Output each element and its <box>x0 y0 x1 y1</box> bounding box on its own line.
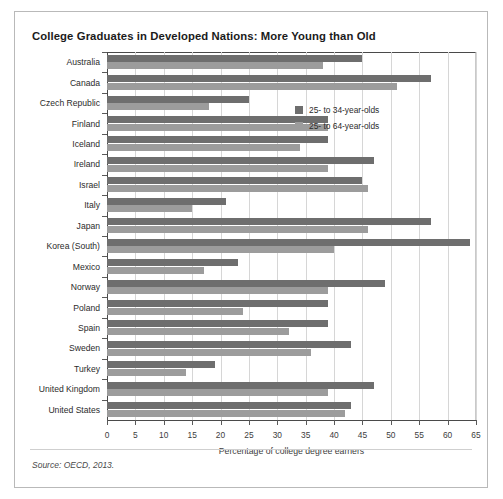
x-tick-label: 35 <box>301 430 310 440</box>
category-label: Korea (South) <box>46 241 100 251</box>
bar-row: Czech Republic <box>107 93 476 113</box>
category-tick <box>102 72 107 73</box>
bar-row: Turkey <box>107 359 476 379</box>
bar-row: Iceland <box>107 134 476 154</box>
plot-area: 05101520253035404550556065 AustraliaCana… <box>107 52 476 420</box>
bar-young <box>107 96 249 103</box>
bar-young <box>107 198 226 205</box>
bar-young <box>107 300 328 307</box>
x-tick <box>391 420 392 425</box>
x-tick-label: 45 <box>358 430 367 440</box>
x-tick-label: 25 <box>244 430 253 440</box>
x-tick-label: 60 <box>443 430 452 440</box>
bar-row: Italy <box>107 195 476 215</box>
category-tick <box>102 236 107 237</box>
category-label: United Kingdom <box>39 384 100 394</box>
category-tick <box>102 154 107 155</box>
bar-all <box>107 165 328 172</box>
bar-all <box>107 267 204 274</box>
x-tick <box>164 420 165 425</box>
bar-row: United Kingdom <box>107 379 476 399</box>
bar-row: Mexico <box>107 256 476 276</box>
bar-row: Finland <box>107 113 476 133</box>
category-tick <box>102 338 107 339</box>
category-label: Japan <box>77 221 100 231</box>
bar-young <box>107 75 431 82</box>
bar-row: Poland <box>107 297 476 317</box>
bar-all <box>107 185 368 192</box>
category-tick <box>102 134 107 135</box>
category-label: Ireland <box>74 159 100 169</box>
category-label: Czech Republic <box>40 98 100 108</box>
bar-young <box>107 320 328 327</box>
category-tick <box>102 93 107 94</box>
bar-young <box>107 136 328 143</box>
bar-young <box>107 280 385 287</box>
bar-young <box>107 341 351 348</box>
category-label: Poland <box>73 303 100 313</box>
category-tick <box>102 195 107 196</box>
chart-figure: College Graduates in Developed Nations: … <box>14 11 488 488</box>
bar-all <box>107 349 311 356</box>
bar-all <box>107 226 368 233</box>
x-tick-label: 40 <box>329 430 338 440</box>
category-label: Turkey <box>74 364 100 374</box>
bar-young <box>107 259 238 266</box>
category-tick <box>102 379 107 380</box>
bar-all <box>107 287 328 294</box>
legend-label: 25- to 64-year-olds <box>309 121 379 131</box>
bar-all <box>107 62 323 69</box>
bar-young <box>107 55 362 62</box>
x-tick-label: 50 <box>386 430 395 440</box>
bar-row: United States <box>107 400 476 420</box>
source-note: Source: OECD, 2013. <box>32 460 114 470</box>
x-tick-label: 55 <box>415 430 424 440</box>
x-tick <box>476 420 477 425</box>
x-tick <box>107 420 108 425</box>
x-tick-label: 20 <box>216 430 225 440</box>
x-tick <box>192 420 193 425</box>
bar-all <box>107 144 300 151</box>
category-label: Finland <box>72 119 100 129</box>
category-label: Spain <box>78 323 100 333</box>
category-label: Norway <box>71 282 100 292</box>
category-label: Mexico <box>73 262 100 272</box>
bar-row: Canada <box>107 72 476 92</box>
legend-item: 25- to 34-year-olds <box>295 105 379 115</box>
bar-young <box>107 361 215 368</box>
category-tick <box>102 175 107 176</box>
x-axis-line <box>107 420 476 421</box>
bar-row: Norway <box>107 277 476 297</box>
category-tick <box>102 297 107 298</box>
x-tick-label: 10 <box>159 430 168 440</box>
category-label: Australia <box>67 57 100 67</box>
footer-divider <box>30 449 472 450</box>
bar-young <box>107 402 351 409</box>
x-tick <box>362 420 363 425</box>
category-tick <box>102 113 107 114</box>
bar-row: Israel <box>107 175 476 195</box>
bar-row: Sweden <box>107 338 476 358</box>
bar-row: Japan <box>107 216 476 236</box>
bar-all <box>107 103 209 110</box>
category-label: Sweden <box>69 343 100 353</box>
category-label: Canada <box>70 78 100 88</box>
bar-young <box>107 382 374 389</box>
category-label: United States <box>48 405 100 415</box>
category-tick <box>102 400 107 401</box>
x-tick <box>334 420 335 425</box>
category-label: Israel <box>79 180 100 190</box>
x-tick <box>306 420 307 425</box>
category-tick <box>102 52 107 53</box>
bar-row: Spain <box>107 318 476 338</box>
gridline <box>476 52 477 420</box>
bar-all <box>107 205 192 212</box>
x-tick-label: 30 <box>273 430 282 440</box>
bar-young <box>107 239 470 246</box>
bar-all <box>107 246 334 253</box>
x-tick <box>419 420 420 425</box>
legend-label: 25- to 34-year-olds <box>309 105 379 115</box>
category-tick <box>102 216 107 217</box>
x-tick <box>277 420 278 425</box>
category-label: Iceland <box>72 139 100 149</box>
